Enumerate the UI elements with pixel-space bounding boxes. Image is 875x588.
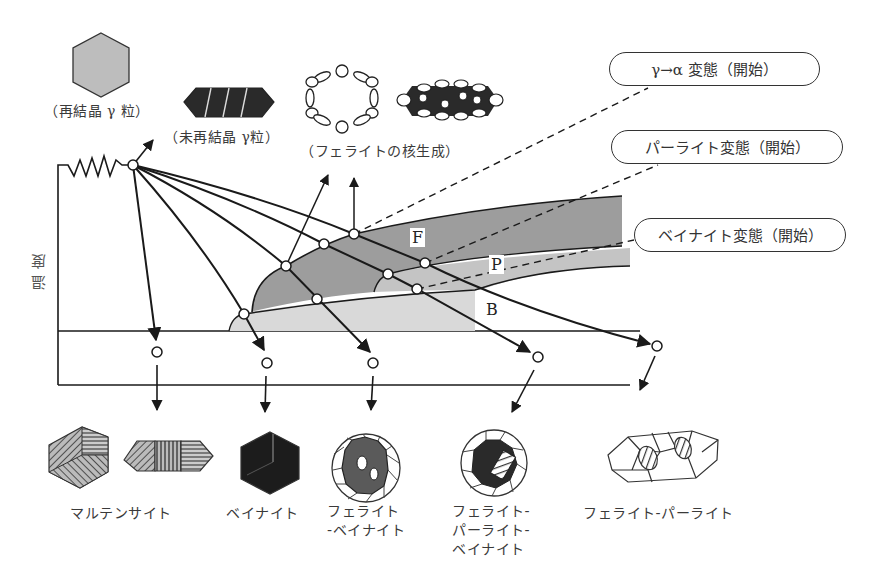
ferrite-pearlite-bainite-icon	[461, 430, 527, 496]
product-arrows	[157, 356, 655, 412]
recrystallized-grain-icon	[73, 33, 129, 97]
label-ferrite-nucleation: （フェライトの核生成）	[300, 140, 460, 160]
ferrite-nucleation-ring-icon	[306, 65, 378, 133]
region-label-bainite: B	[484, 300, 500, 319]
unrecrystallized-grain-icon	[184, 88, 274, 117]
y-axis-label-temperature: 温度	[28, 248, 48, 290]
label-martensite: マルテンサイト	[70, 502, 172, 522]
region-label-ferrite: F	[410, 228, 425, 247]
label-unrecrystallized-gamma-grain: （未再結晶 γ粒）	[164, 126, 279, 146]
martensite-hex-icon	[49, 427, 108, 488]
region-label-pearlite: P	[489, 255, 504, 274]
bainite-icon	[241, 432, 299, 494]
callout-bainite-transformation: ベイナイト変態（開始）	[634, 218, 846, 252]
ferrite-nucleation-grain-icon	[397, 80, 503, 120]
label-ferrite-bainite: フェライト -ベイナイト	[327, 502, 405, 540]
callout-pearlite-transformation: パーライト変態（開始）	[611, 130, 843, 164]
martensite-elongated-icon	[124, 441, 213, 471]
ferrite-bainite-icon	[332, 434, 400, 502]
label-bainite: ベイナイト	[226, 502, 299, 522]
label-ferrite-pearlite: フェライト-パーライト	[583, 502, 734, 522]
ferrite-pearlite-icon	[608, 431, 718, 482]
label-ferrite-pearlite-bainite: フェライト- パーライト- ベイナイト	[452, 502, 530, 559]
label-recrystallized-gamma-grain: （再結晶 γ 粒）	[44, 100, 150, 120]
cct-diagram-canvas	[0, 0, 875, 588]
callout-gamma-alpha-transformation: γ→α 変態（開始）	[609, 52, 820, 86]
